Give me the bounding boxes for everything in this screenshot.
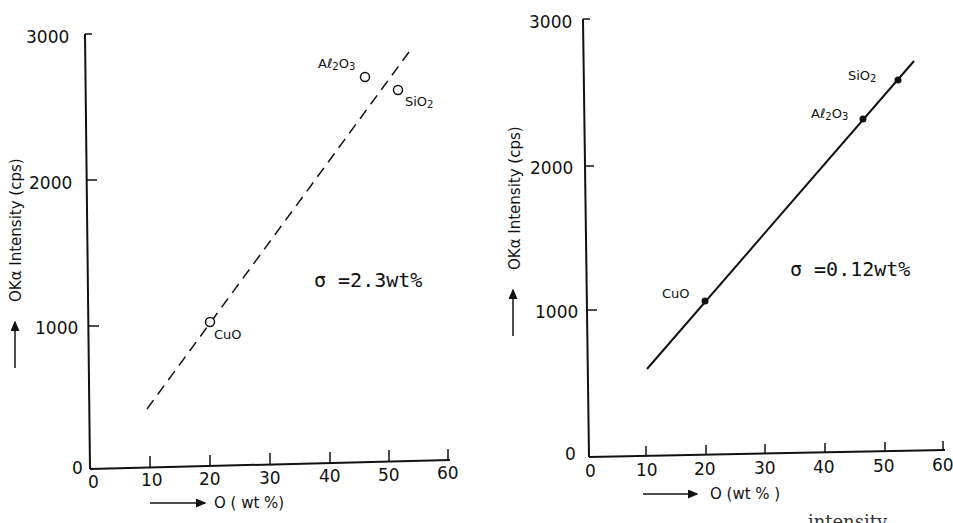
right-fit-line (647, 61, 914, 369)
right-point-sio2 (895, 77, 902, 84)
right-point-al2o3 (860, 116, 867, 123)
left-x-tick-label: 0 (88, 472, 99, 492)
right-x-tick-label: 40 (813, 457, 835, 477)
right-label-al2o3: Aℓ2O3 (811, 106, 848, 122)
left-label-sio2: SiO2 (405, 94, 433, 110)
right-x-tick-label: 10 (636, 460, 658, 480)
left-x-tick-label: 40 (319, 466, 341, 486)
right-y-tick-label: 1000 (535, 302, 578, 322)
left-point-al2o3 (361, 73, 370, 82)
left-y-tick-label: 1000 (35, 318, 78, 338)
right-y-axis (583, 19, 589, 457)
left-sigma-annotation: σ =2.3wt% (314, 268, 422, 292)
left-y-tick-label: 3000 (26, 27, 69, 47)
right-x-axis-title: O (wt % ) (710, 485, 780, 503)
right-x-tick-label: 30 (754, 458, 776, 478)
left-x-tick-label: 20 (199, 469, 221, 489)
cropped-caption-fragment: ... intensity (785, 511, 888, 523)
right-x-tick-label: 20 (694, 459, 716, 479)
left-point-cuo (206, 318, 215, 327)
right-x-tick-label: 60 (932, 455, 953, 475)
left-label-cuo: CuO (214, 327, 242, 342)
left-x-tick-label: 50 (378, 465, 400, 485)
right-x-tick-label: 50 (873, 456, 895, 476)
left-x-axis-title: O ( wt %) (214, 494, 284, 512)
right-point-cuo (702, 298, 709, 305)
right-label-cuo: CuO (662, 286, 690, 301)
right-y-tick-label: 0 (565, 444, 576, 464)
left-y-axis (85, 34, 90, 469)
left-fit-line (147, 52, 409, 409)
right-x-tick-label: 0 (585, 461, 596, 481)
right-y-axis-title: OKα Intensity (cps) (506, 126, 524, 270)
left-chart: 3000 2000 1000 0 0 10 20 30 40 50 60 O (… (7, 27, 459, 512)
left-x-tick-label: 30 (259, 468, 281, 488)
left-y-tick-label: 2000 (29, 173, 72, 193)
figure-canvas: 3000 2000 1000 0 0 10 20 30 40 50 60 O (… (0, 0, 953, 523)
right-y-tick-label: 2000 (530, 158, 573, 178)
left-label-al2o3: Aℓ2O3 (318, 56, 355, 72)
left-y-tick-label: 0 (72, 458, 83, 478)
right-label-sio2: SiO2 (848, 68, 876, 84)
right-chart: 3000 2000 1000 0 0 10 20 30 40 50 60 O (… (506, 12, 953, 503)
left-y-axis-title: OKα Intensity (cps) (7, 158, 25, 302)
right-sigma-annotation: σ =0.12wt% (790, 257, 910, 281)
right-y-tick-label: 3000 (529, 12, 572, 32)
left-point-sio2 (394, 86, 403, 95)
left-x-tick-label: 60 (437, 463, 459, 483)
left-x-tick-label: 10 (141, 470, 163, 490)
